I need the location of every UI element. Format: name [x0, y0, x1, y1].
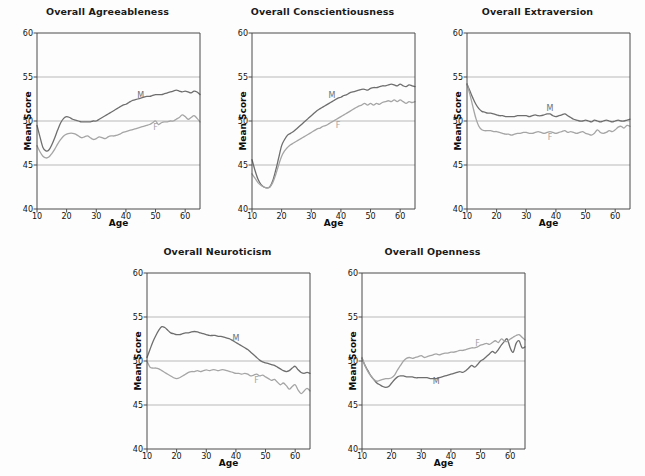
y-tick-label: 45	[133, 401, 143, 410]
plot-area: 4045505560102030405060MF	[252, 33, 415, 209]
panel-title: Overall Agreeableness	[0, 6, 215, 17]
x-axis-label: Age	[362, 458, 525, 468]
chart-panel-agreeableness: Overall Agreeableness Mean Score 4045505…	[0, 0, 215, 236]
y-tick-label: 45	[23, 161, 33, 170]
y-tick-label: 50	[133, 357, 143, 366]
chart-panel-openness: Overall Openness Mean Score 404550556010…	[325, 240, 540, 476]
y-tick-label: 60	[238, 29, 248, 38]
y-tick-label: 55	[133, 313, 143, 322]
series-line-f	[467, 84, 630, 135]
chart-canvas	[37, 33, 200, 209]
y-tick-label: 45	[238, 161, 248, 170]
chart-canvas	[147, 273, 310, 449]
y-tick-label: 50	[23, 117, 33, 126]
y-tick-label: 60	[23, 29, 33, 38]
panel-title: Overall Openness	[325, 246, 540, 257]
chart-canvas	[362, 273, 525, 449]
panel-title: Overall Extraversion	[430, 6, 645, 17]
x-axis-label: Age	[467, 218, 630, 228]
y-tick-label: 60	[348, 269, 358, 278]
series-line-f	[147, 361, 310, 394]
series-line-f	[252, 100, 415, 188]
plot-area: 4045505560102030405060MF	[147, 273, 310, 449]
y-tick-label: 45	[453, 161, 463, 170]
x-axis-label: Age	[37, 218, 200, 228]
y-tick-label: 50	[453, 117, 463, 126]
series-line-m	[467, 84, 630, 122]
y-tick-label: 55	[348, 313, 358, 322]
y-tick-label: 50	[238, 117, 248, 126]
y-tick-label: 60	[453, 29, 463, 38]
chart-panel-extraversion: Overall Extraversion Mean Score 40455055…	[430, 0, 645, 236]
series-line-f	[362, 335, 525, 382]
panel-title: Overall Conscientiousness	[215, 6, 430, 17]
chart-canvas	[467, 33, 630, 209]
y-tick-label: 55	[238, 73, 248, 82]
plot-area: 4045505560102030405060MF	[37, 33, 200, 209]
plot-area: 4045505560102030405060MF	[362, 273, 525, 449]
y-tick-label: 55	[23, 73, 33, 82]
chart-canvas	[252, 33, 415, 209]
plot-area: 4045505560102030405060MF	[467, 33, 630, 209]
x-axis-label: Age	[252, 218, 415, 228]
y-tick-label: 45	[348, 401, 358, 410]
chart-panel-conscientiousness: Overall Conscientiousness Mean Score 404…	[215, 0, 430, 236]
series-line-m	[362, 339, 525, 388]
series-line-m	[147, 327, 310, 374]
panel-title: Overall Neuroticism	[110, 246, 325, 257]
x-axis-label: Age	[147, 458, 310, 468]
figure-panels: Overall Agreeableness Mean Score 4045505…	[0, 0, 645, 476]
y-tick-label: 55	[453, 73, 463, 82]
chart-panel-neuroticism: Overall Neuroticism Mean Score 404550556…	[110, 240, 325, 476]
y-tick-label: 60	[133, 269, 143, 278]
y-tick-label: 50	[348, 357, 358, 366]
